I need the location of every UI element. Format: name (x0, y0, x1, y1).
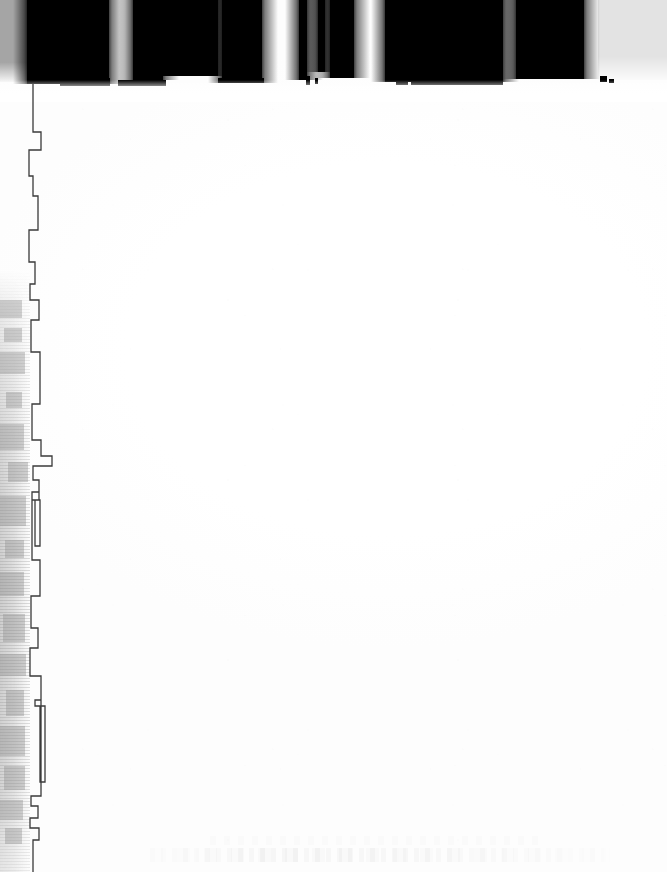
baseline-speck (600, 76, 607, 82)
baseline-speck (411, 79, 433, 85)
overexposed-blob (222, 0, 262, 83)
overexposed-blob (330, 0, 354, 78)
overexposed-blob (27, 0, 109, 84)
baseline-speck (118, 80, 166, 86)
baseline-speck (315, 78, 318, 84)
baseline-speck (218, 78, 264, 83)
overexposed-blob (516, 0, 584, 79)
baseline-speck (306, 76, 310, 85)
overexposed-blob (385, 0, 503, 82)
scanned-document-page (0, 0, 667, 872)
baseline-speck (433, 81, 503, 85)
baseline-speck (609, 79, 614, 83)
baseline-speck (60, 78, 110, 86)
baseline-speck (396, 74, 408, 85)
right-gray-panel (598, 0, 667, 80)
page-background (0, 0, 667, 872)
top-dark-band (0, 0, 667, 90)
